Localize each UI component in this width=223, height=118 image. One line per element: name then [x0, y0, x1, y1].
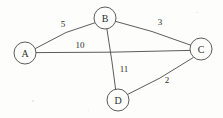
node-b[interactable]: B [94, 7, 116, 29]
node-group: A B C D [14, 7, 212, 111]
node-a[interactable]: A [14, 42, 36, 64]
node-d-label: D [114, 95, 121, 106]
edge-d-c[interactable] [127, 58, 193, 95]
edge-group [35, 21, 193, 94]
scan-speck [32, 100, 34, 102]
node-c[interactable]: C [190, 38, 212, 60]
node-d[interactable]: D [107, 89, 129, 111]
edge-weight-a-c: 10 [76, 40, 86, 50]
node-a-label: A [21, 48, 29, 59]
edge-weight-a-b: 5 [61, 19, 66, 29]
node-c-label: C [198, 44, 205, 55]
scan-speck [196, 12, 198, 13]
edge-weight-d-c: 2 [165, 75, 170, 85]
scan-speck [88, 110, 89, 111]
edge-b-c[interactable] [116, 21, 191, 45]
edge-b-d[interactable] [107, 29, 116, 89]
edge-a-c[interactable] [36, 50, 190, 52]
edge-weight-b-d: 11 [120, 64, 129, 74]
node-b-label: B [102, 13, 109, 24]
edge-a-b[interactable] [35, 23, 95, 49]
graph-diagram-canvas: 5 3 10 11 2 A B C D [0, 0, 223, 118]
edge-weight-b-c: 3 [158, 17, 163, 27]
